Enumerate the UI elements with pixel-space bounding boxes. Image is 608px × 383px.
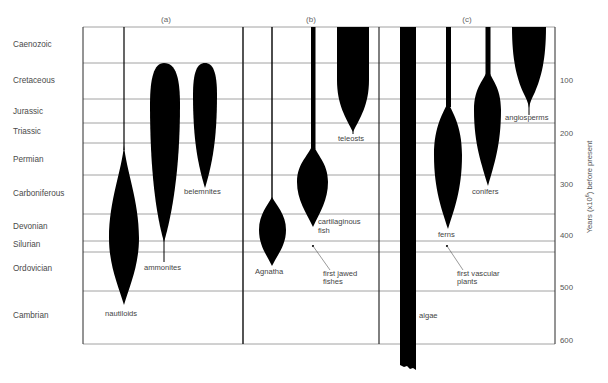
label-teleosts: teleosts bbox=[338, 134, 364, 143]
y-tick: 500 bbox=[560, 283, 574, 292]
y-tick: 300 bbox=[560, 180, 574, 189]
period-label: Caenozoic bbox=[13, 40, 52, 49]
y-tick: 400 bbox=[560, 231, 574, 240]
y-axis-title-main: Years (x10 bbox=[585, 197, 594, 233]
y-axis-title-tail: ) before present bbox=[585, 140, 594, 194]
y-tick: 600 bbox=[560, 336, 574, 345]
ferns-stem bbox=[446, 27, 451, 107]
period-label: Devonian bbox=[13, 222, 48, 231]
period-label: Cambrian bbox=[13, 311, 49, 320]
ammonites-spindle bbox=[150, 63, 180, 242]
period-label: Carboniferous bbox=[13, 189, 64, 198]
label-first-vascular-2: plants bbox=[457, 277, 477, 286]
angiosperms-spindle bbox=[512, 27, 546, 108]
period-label: Triassic bbox=[13, 127, 41, 136]
y-axis-ticks: 100 200 300 400 500 600 bbox=[560, 76, 574, 345]
label-angiosperms: angiosperms bbox=[505, 113, 549, 122]
first-vascular-plants-leader bbox=[447, 246, 463, 270]
teleosts-spindle bbox=[337, 27, 369, 132]
cartilaginous-fish-stem bbox=[311, 27, 316, 149]
y-axis-title: Years (x106) before present bbox=[584, 140, 594, 234]
label-cartilaginous-fish-1: cartilaginous bbox=[318, 217, 361, 226]
label-ammonites: ammonites bbox=[144, 263, 181, 272]
label-belemnites: belemnites bbox=[184, 187, 221, 196]
label-cartilaginous-fish-2: fish bbox=[318, 226, 330, 235]
algae-bar bbox=[400, 27, 416, 370]
label-conifers: conifers bbox=[472, 187, 499, 196]
y-tick: 100 bbox=[560, 76, 574, 85]
nautiloids-spindle bbox=[109, 145, 139, 305]
label-agnatha: Agnatha bbox=[255, 267, 284, 276]
panel-c-title: (c) bbox=[462, 15, 472, 24]
label-algae: algae bbox=[419, 311, 438, 320]
label-nautiloids: nautiloids bbox=[105, 309, 137, 318]
ferns-spindle bbox=[434, 102, 462, 229]
agnatha-spindle bbox=[259, 197, 286, 266]
conifers-spindle bbox=[474, 68, 501, 186]
period-labels: Caenozoic Cretaceous Jurassic Triassic P… bbox=[13, 40, 64, 320]
belemnites-spindle bbox=[193, 63, 217, 188]
conifers-stem bbox=[486, 27, 491, 75]
label-first-jawed-2: fishes bbox=[323, 277, 343, 286]
period-label: Cretaceous bbox=[13, 76, 55, 85]
panel-a-title: (a) bbox=[161, 15, 171, 24]
panel-b-title: (b) bbox=[306, 15, 316, 24]
first-jawed-fishes-leader bbox=[313, 246, 330, 270]
evolution-diversity-chart: (a) (b) (c) Caenozoic Cretaceous Jurassi… bbox=[0, 0, 608, 383]
period-label: Jurassic bbox=[13, 107, 43, 116]
period-label: Permian bbox=[13, 155, 44, 164]
label-ferns: ferns bbox=[438, 230, 455, 239]
panel-b-spindles bbox=[259, 27, 369, 270]
period-label: Silurian bbox=[13, 240, 41, 249]
y-tick: 200 bbox=[560, 129, 574, 138]
period-label: Ordovician bbox=[13, 264, 53, 273]
